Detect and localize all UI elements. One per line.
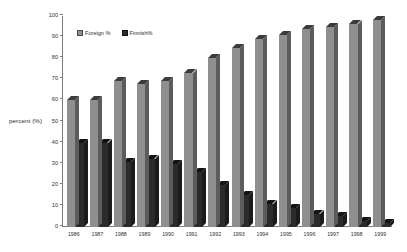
y-axis-tick-label: 30 bbox=[36, 161, 58, 167]
x-axis-label: 1986 bbox=[62, 232, 86, 237]
bar-group bbox=[349, 16, 366, 227]
y-axis-tick-label: 40 bbox=[36, 140, 58, 146]
legend-swatch-icon-finnish bbox=[122, 30, 128, 36]
bar-foreign bbox=[302, 29, 310, 227]
y-axis-tick-label: 70 bbox=[36, 76, 58, 82]
legend-label-foreign: Foreign % bbox=[85, 30, 111, 36]
bar-face-side bbox=[155, 155, 159, 227]
bar-face-front bbox=[232, 48, 240, 227]
bar-foreign bbox=[90, 100, 98, 227]
bar-face-side bbox=[263, 35, 267, 227]
bar-face-side bbox=[193, 69, 197, 227]
bar-face-side bbox=[249, 191, 253, 227]
bar-face-front bbox=[208, 58, 216, 227]
x-axis-label: 1992 bbox=[203, 232, 227, 237]
x-axis-label: 1998 bbox=[345, 232, 369, 237]
x-axis-label: 1997 bbox=[321, 232, 345, 237]
bar-face-side bbox=[310, 25, 314, 227]
bar-face-side bbox=[381, 16, 385, 227]
x-axis-label: 1994 bbox=[251, 232, 275, 237]
bar-face-side bbox=[169, 77, 173, 227]
bar-group bbox=[302, 16, 319, 227]
bar-group bbox=[184, 16, 201, 227]
x-axis-label: 1999 bbox=[368, 232, 392, 237]
bar-foreign bbox=[349, 24, 357, 227]
bar-face-front bbox=[161, 81, 169, 227]
legend-item-foreign: Foreign % bbox=[77, 30, 111, 36]
bar-group bbox=[208, 16, 225, 227]
bar-group bbox=[326, 16, 343, 227]
bar-group bbox=[255, 16, 272, 227]
y-axis-tick-label: 100 bbox=[36, 13, 58, 19]
bar-group bbox=[232, 16, 249, 227]
bar-face-front bbox=[373, 20, 381, 227]
bar-face-front bbox=[349, 24, 357, 227]
bar-foreign bbox=[67, 100, 75, 227]
x-axis-labels: 1986198719881989199019911992199319941995… bbox=[62, 232, 392, 244]
y-axis-tick-label: 80 bbox=[36, 55, 58, 61]
bar-foreign bbox=[208, 58, 216, 227]
y-axis-tick-label: 60 bbox=[36, 97, 58, 103]
x-axis-label: 1990 bbox=[156, 232, 180, 237]
bar-face-side bbox=[202, 168, 206, 227]
bar-foreign bbox=[255, 39, 263, 227]
bar-face-front bbox=[184, 73, 192, 227]
bar-foreign bbox=[114, 81, 122, 227]
x-axis-label: 1991 bbox=[180, 232, 204, 237]
y-axis-tick-mark bbox=[60, 14, 63, 15]
bar-face-side bbox=[131, 158, 135, 227]
bar-face-side bbox=[122, 77, 126, 227]
bar-face-side bbox=[75, 96, 79, 227]
bar-series-container bbox=[62, 16, 392, 227]
bar-foreign bbox=[184, 73, 192, 227]
bar-face-side bbox=[145, 80, 149, 227]
bar-group bbox=[114, 16, 131, 227]
bar-face-front bbox=[67, 100, 75, 227]
x-axis-label: 1996 bbox=[298, 232, 322, 237]
y-axis-tick-label: 10 bbox=[36, 203, 58, 209]
bar-face-side bbox=[98, 96, 102, 227]
bar-face-side bbox=[178, 160, 182, 227]
x-axis-label: 1995 bbox=[274, 232, 298, 237]
x-axis-label: 1987 bbox=[86, 232, 110, 237]
x-axis-label: 1989 bbox=[133, 232, 157, 237]
bar-group bbox=[137, 16, 154, 227]
bar-face-front bbox=[326, 27, 334, 227]
bar-group bbox=[67, 16, 84, 227]
bar-foreign bbox=[373, 20, 381, 227]
bar-group bbox=[373, 16, 390, 227]
chart-legend: Foreign % Finnish% bbox=[77, 30, 153, 36]
bar-face-side bbox=[287, 31, 291, 227]
y-axis-tick-label: 90 bbox=[36, 34, 58, 40]
y-axis-tick-label: 50 bbox=[36, 119, 58, 125]
bar-foreign bbox=[279, 35, 287, 227]
x-axis-label: 1993 bbox=[227, 232, 251, 237]
bar-group bbox=[279, 16, 296, 227]
bar-foreign bbox=[137, 84, 145, 227]
bar-face-side bbox=[273, 200, 277, 227]
x-axis-label: 1988 bbox=[109, 232, 133, 237]
bar-face-side bbox=[334, 23, 338, 227]
bar-face-side bbox=[84, 139, 88, 227]
y-axis-tick-label: 20 bbox=[36, 182, 58, 188]
bar-face-side bbox=[225, 181, 229, 227]
legend-label-finnish: Finnish% bbox=[130, 30, 153, 36]
legend-swatch-icon-foreign bbox=[77, 30, 83, 36]
bar-face-front bbox=[279, 35, 287, 227]
bar-foreign bbox=[161, 81, 169, 227]
bar-face-side bbox=[358, 20, 362, 227]
legend-item-finnish: Finnish% bbox=[122, 30, 153, 36]
bar-foreign bbox=[232, 48, 240, 227]
bar-group bbox=[161, 16, 178, 227]
plot-area: 0102030405060708090100 bbox=[62, 16, 392, 227]
bar-foreign bbox=[326, 27, 334, 227]
bar-chart: percent (%) 0102030405060708090100 19861… bbox=[0, 0, 407, 252]
bar-face-side bbox=[108, 139, 112, 227]
bar-group bbox=[90, 16, 107, 227]
bar-face-side bbox=[240, 44, 244, 227]
y-axis-tick-label: 0 bbox=[36, 224, 58, 230]
bar-face-front bbox=[114, 81, 122, 227]
bar-face-side bbox=[216, 54, 220, 227]
